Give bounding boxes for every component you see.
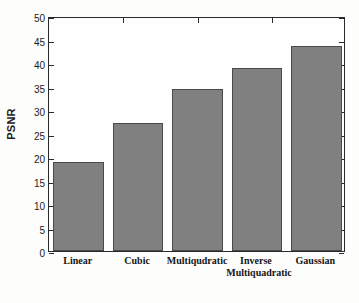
x-tick-label: Cubic — [107, 255, 166, 267]
bar — [291, 46, 342, 251]
y-tick-mark-right — [339, 253, 344, 254]
bar — [53, 162, 104, 251]
x-tick-label: Inverse Multiquadratic — [226, 255, 285, 278]
y-tick-mark — [49, 253, 54, 254]
x-tick-label: Multiqudratic — [167, 255, 226, 267]
bar-chart-figure: PSNR 05101520253035404550 LinearCubicMul… — [0, 0, 359, 303]
x-tick-label: Linear — [48, 255, 107, 267]
y-tick-label: 5 — [39, 224, 45, 235]
y-tick-label: 0 — [39, 248, 45, 259]
y-tick-label: 10 — [34, 201, 45, 212]
y-tick-label: 20 — [34, 154, 45, 165]
bar-series — [49, 18, 344, 251]
y-axis-title: PSNR — [5, 89, 17, 159]
y-tick-label: 25 — [34, 130, 45, 141]
bar — [172, 89, 223, 251]
y-tick-label: 30 — [34, 107, 45, 118]
plot-area: 05101520253035404550 — [48, 17, 345, 252]
bar — [232, 68, 283, 251]
y-tick-label: 50 — [34, 13, 45, 24]
x-tick-label: Gaussian — [286, 255, 345, 267]
y-tick-label: 35 — [34, 83, 45, 94]
y-tick-label: 15 — [34, 177, 45, 188]
y-tick-label: 40 — [34, 60, 45, 71]
y-tick-label: 45 — [34, 36, 45, 47]
bar — [113, 123, 164, 251]
